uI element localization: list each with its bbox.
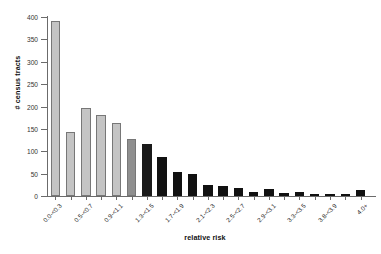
x-tick <box>177 196 178 200</box>
x-tick <box>116 196 117 200</box>
bar-chart: # census tracts 050100150200250300350400… <box>0 0 381 254</box>
x-tick <box>238 196 239 200</box>
x-axis-title: relative risk <box>130 233 280 242</box>
bar <box>325 194 334 196</box>
y-tick <box>41 196 47 197</box>
y-tick-label: 100 <box>10 148 38 155</box>
bar <box>51 21 60 196</box>
x-tick <box>269 196 270 200</box>
bar <box>264 189 273 196</box>
y-tick-label: 300 <box>10 58 38 65</box>
bar <box>112 123 121 196</box>
y-tick-label: 350 <box>10 36 38 43</box>
bar <box>173 172 182 196</box>
x-tick <box>299 196 300 200</box>
x-tick <box>147 196 148 200</box>
x-tick <box>55 196 56 200</box>
bar <box>142 144 151 196</box>
bar <box>81 108 90 196</box>
y-tick-label: 0 <box>10 193 38 200</box>
bar <box>203 185 212 196</box>
y-tick-label: 400 <box>10 14 38 21</box>
plot-area <box>47 17 375 196</box>
y-tick-label: 50 <box>10 170 38 177</box>
bar <box>295 192 304 196</box>
y-tick-label: 150 <box>10 126 38 133</box>
bar <box>96 115 105 196</box>
y-tick-label: 250 <box>10 81 38 88</box>
x-tick <box>330 196 331 200</box>
y-tick-label: 200 <box>10 103 38 110</box>
x-tick <box>361 196 362 200</box>
bar <box>356 190 365 196</box>
x-tick <box>208 196 209 200</box>
x-tick <box>86 196 87 200</box>
bar <box>234 188 243 197</box>
